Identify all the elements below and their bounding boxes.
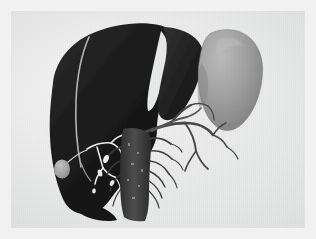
render-canvas[interactable] bbox=[11, 11, 305, 228]
anatomy-scene bbox=[11, 11, 305, 228]
volume-render-viewer[interactable] bbox=[0, 0, 316, 239]
kidney bbox=[198, 30, 263, 131]
trunk-right-branches bbox=[149, 138, 183, 208]
